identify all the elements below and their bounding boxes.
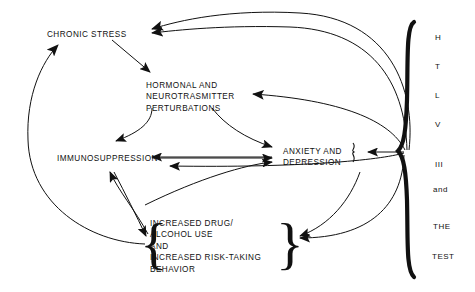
htlv-word-the: THE [433, 222, 451, 231]
htlv-word-test: TEST [432, 252, 454, 261]
htlv-main-brace [398, 22, 414, 277]
htlv-word-and: and [433, 185, 448, 194]
htlv-letter-h: H [435, 33, 441, 42]
diagram-canvas: CHRONIC STRESS HORMONAL AND NEUROTRASMIT… [0, 0, 475, 292]
htlv-brace-layer [0, 0, 475, 292]
htlv-letter-t: T [435, 62, 440, 71]
htlv-numeral-iii: III [435, 160, 443, 169]
htlv-letter-l: L [435, 91, 440, 100]
htlv-letter-v: V [435, 120, 441, 129]
